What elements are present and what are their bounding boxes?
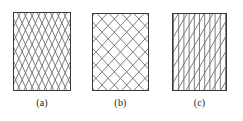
hatch-swatch-c — [172, 13, 227, 91]
panel-b: (b) — [92, 13, 149, 109]
hatch-swatch-b — [92, 13, 149, 91]
hatch-pattern-figure: (a) (b) (c) — [0, 0, 243, 121]
panel-a-caption: (a) — [13, 97, 71, 108]
panel-c-caption: (c) — [172, 97, 227, 108]
hatch-lines-c — [173, 14, 226, 90]
panel-b-caption: (b) — [92, 97, 149, 108]
hatch-lines-b — [93, 14, 148, 90]
panel-c: (c) — [172, 13, 227, 109]
hatch-swatch-a — [13, 12, 71, 91]
hatch-lines-a — [14, 13, 70, 90]
panel-a: (a) — [13, 12, 71, 109]
